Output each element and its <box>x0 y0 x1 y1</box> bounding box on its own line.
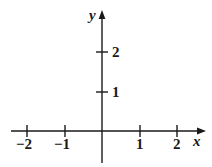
x-tick-label-neg1: −1 <box>54 137 70 152</box>
x-tick-label-pos1: 1 <box>136 137 144 152</box>
x-axis-label: x <box>193 134 201 149</box>
y-tick-label-pos1: 1 <box>112 85 120 100</box>
y-axis-label: y <box>89 8 96 23</box>
y-axis-arrowhead <box>99 10 106 19</box>
coordinate-axes-figure: −2 −1 1 2 1 2 y x <box>0 0 212 167</box>
y-tick-label-pos2: 2 <box>112 45 120 60</box>
x-tick-label-pos2: 2 <box>173 137 181 152</box>
x-tick-label-neg2: −2 <box>16 137 32 152</box>
